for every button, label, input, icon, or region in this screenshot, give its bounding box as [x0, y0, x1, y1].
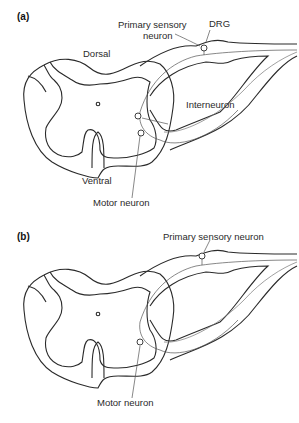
panel-a-letter: (a) — [17, 12, 29, 22]
label-dorsal: Dorsal — [83, 49, 110, 59]
spinal-cord-outline — [24, 269, 174, 388]
central-canal — [96, 312, 100, 316]
label-primary-sensory-line1: Primary sensory — [118, 20, 187, 30]
label-drg: DRG — [209, 19, 230, 29]
drg-neuron-icon — [201, 45, 207, 51]
label-interneuron: Interneuron — [186, 100, 235, 110]
label-primary-sensory: Primary sensory neuron — [163, 232, 264, 242]
spinal-cord-outline — [24, 59, 174, 178]
label-primary-sensory-line2: neuron — [143, 31, 173, 41]
motor-neuron-icon — [138, 130, 144, 136]
grey-matter — [44, 272, 156, 368]
label-motor-neuron: Motor neuron — [97, 398, 154, 408]
drg-neuron-icon — [199, 253, 205, 259]
interneuron-icon — [135, 113, 141, 119]
label-ventral: Ventral — [82, 176, 112, 186]
central-canal — [96, 102, 100, 106]
label-motor-neuron: Motor neuron — [93, 198, 150, 208]
panel-b-letter: (b) — [17, 232, 30, 242]
motor-neuron-icon — [137, 339, 143, 345]
